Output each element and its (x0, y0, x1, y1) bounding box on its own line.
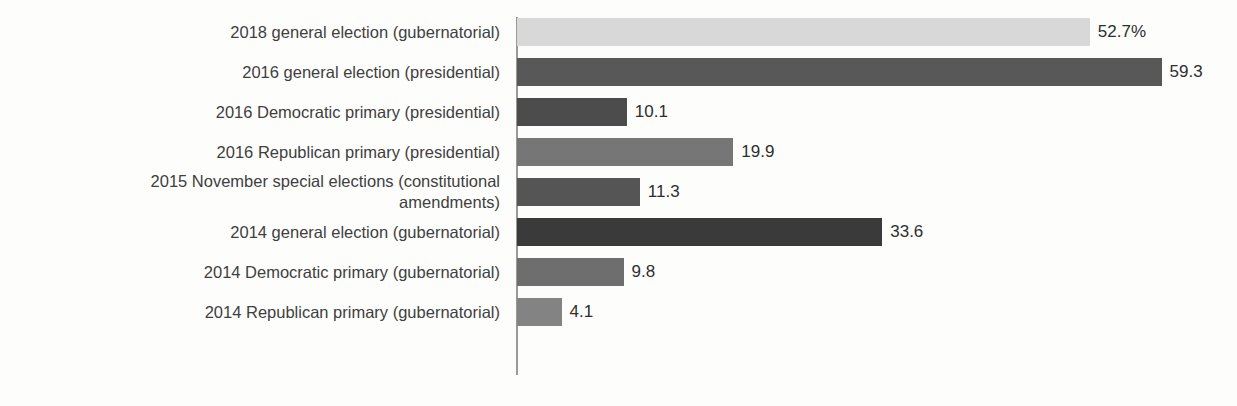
bar (517, 178, 640, 206)
bar-value-label: 11.3 (648, 178, 680, 206)
plot-area: 2018 general election (gubernatorial)52.… (0, 0, 1237, 406)
bar-row: 2014 general election (gubernatorial)33.… (0, 218, 1237, 258)
bar (517, 258, 624, 286)
bar-value-label: 52.7% (1098, 18, 1146, 46)
bar-value-label: 33.6 (890, 218, 923, 246)
category-label: 2014 Republican primary (gubernatorial) (0, 302, 500, 323)
category-label: 2016 Democratic primary (presidential) (0, 102, 500, 123)
bar-value-label: 19.9 (741, 138, 774, 166)
bar-row: 2016 Democratic primary (presidential)10… (0, 98, 1237, 138)
bar-value-label: 10.1 (635, 98, 668, 126)
bar (517, 138, 733, 166)
bar-value-label: 4.1 (570, 298, 594, 326)
bar-chart: 2018 general election (gubernatorial)52.… (0, 0, 1237, 406)
bar (517, 98, 627, 126)
bar (517, 298, 562, 326)
bar-row: 2018 general election (gubernatorial)52.… (0, 18, 1237, 58)
bar (517, 58, 1162, 86)
category-label: 2014 general election (gubernatorial) (0, 222, 500, 243)
bar-row: 2014 Republican primary (gubernatorial)4… (0, 298, 1237, 338)
bar (517, 218, 882, 246)
bar-value-label: 9.8 (632, 258, 656, 286)
category-label: 2015 November special elections (constit… (0, 171, 500, 213)
bar-row: 2014 Democratic primary (gubernatorial)9… (0, 258, 1237, 298)
category-label: 2014 Democratic primary (gubernatorial) (0, 262, 500, 283)
category-label: 2018 general election (gubernatorial) (0, 22, 500, 43)
category-label: 2016 Republican primary (presidential) (0, 142, 500, 163)
bar (517, 18, 1090, 46)
bar-row: 2016 general election (presidential)59.3 (0, 58, 1237, 98)
bar-row: 2015 November special elections (constit… (0, 178, 1237, 218)
category-label: 2016 general election (presidential) (0, 62, 500, 83)
bar-value-label: 59.3 (1170, 58, 1203, 86)
